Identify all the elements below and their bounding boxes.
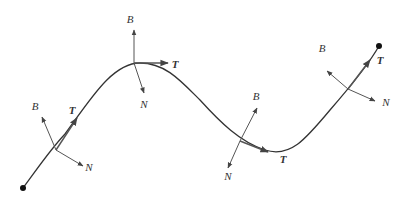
space-curve [23, 46, 379, 188]
t-vector-label: T [280, 153, 288, 165]
t-vector-label: T [172, 58, 180, 70]
tnb-frame-4: TNB [319, 42, 391, 108]
t-vector-arrow-icon [56, 118, 77, 150]
n-vector-label: N [84, 161, 93, 173]
n-vector-label: N [223, 170, 232, 182]
b-vector-label: B [32, 100, 39, 112]
tnb-frame-2: TNB [127, 13, 180, 110]
tnb-frame-diagram: TNBTNBTNBTNB [0, 0, 406, 203]
curve-end-point [376, 43, 382, 49]
b-vector-label: B [319, 42, 326, 54]
t-vector-arrow-icon [240, 141, 268, 152]
tnb-frame-3: TNB [223, 90, 287, 182]
t-vector-arrow-icon [348, 60, 370, 89]
b-vector-label: B [127, 13, 134, 25]
b-vector-arrow-icon [327, 71, 348, 89]
n-vector-label: N [139, 98, 148, 110]
n-vector-label: N [381, 96, 390, 108]
n-vector-arrow-icon [56, 150, 83, 166]
curve-start-point [20, 185, 26, 191]
n-vector-arrow-icon [348, 89, 375, 101]
b-vector-label: B [253, 90, 260, 102]
t-vector-label: T [69, 104, 77, 116]
t-vector-label: T [377, 54, 385, 66]
b-vector-arrow-icon [42, 117, 56, 150]
n-vector-arrow-icon [228, 141, 240, 168]
b-vector-arrow-icon [240, 108, 257, 141]
n-vector-arrow-icon [134, 63, 144, 93]
